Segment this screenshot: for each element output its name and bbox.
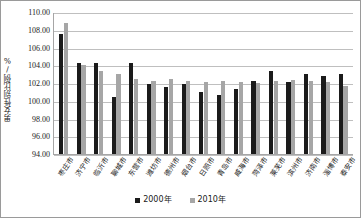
bar-group [300, 13, 317, 154]
bar-2010 [64, 23, 68, 154]
legend-label: 2000年 [143, 196, 171, 204]
legend-entry[interactable]: 2010年 [190, 196, 226, 204]
bar-group [195, 13, 212, 154]
bar-group [265, 13, 282, 154]
y-axis-tick-labels: 110.00108.00106.00104.00102.00100.0098.0… [15, 13, 51, 155]
legend-label: 2010年 [198, 196, 226, 204]
bar-group [230, 13, 247, 154]
x-axis-tick-label: 莱芜市 [269, 156, 287, 178]
bar-group [317, 13, 334, 154]
bar-2000 [339, 74, 343, 154]
bar-2000 [304, 74, 308, 154]
chart-legend: 2000年2010年 [1, 196, 360, 204]
bar-group [335, 13, 352, 154]
bar-2000 [147, 84, 151, 154]
plot-area [53, 13, 353, 155]
bar-2010 [221, 81, 225, 154]
bar-2010 [116, 74, 120, 154]
x-axis-tick-label: 淄博市 [322, 156, 340, 178]
x-axis-tick-label: 德州市 [163, 156, 181, 178]
x-axis-tick-label: 日照市 [198, 156, 216, 178]
bar-2010 [169, 79, 173, 154]
bar-2000 [286, 82, 290, 154]
bar-2010 [291, 80, 295, 154]
bar-2010 [343, 86, 347, 154]
y-axis-tick-label: 94.00 [14, 151, 50, 159]
x-axis-tick-label: 临沂市 [92, 156, 110, 178]
bar-group [282, 13, 299, 154]
y-axis-tick-label: 110.00 [14, 9, 50, 17]
bar-2000 [217, 95, 221, 154]
x-axis-tick-label: 济宁市 [75, 156, 93, 178]
bar-2010 [204, 82, 208, 154]
bar-2000 [59, 34, 63, 154]
x-axis-tick-label: 泰安市 [339, 156, 357, 178]
bar-group [90, 13, 107, 154]
y-axis-tick-label: 98.00 [14, 116, 50, 124]
y-axis-tick-label: 100.00 [14, 98, 50, 106]
bar-2000 [321, 76, 325, 154]
bar-group [55, 13, 72, 154]
x-axis-tick-labels: 枣庄市济宁市临沂市聊城市东营市潍坊市德州市烟台市日照市青岛市威海市菏泽市莱芜市滨… [53, 156, 353, 196]
bar-2000 [77, 63, 81, 154]
bar-2010 [186, 81, 190, 154]
y-axis-tick-label: 108.00 [14, 27, 50, 35]
bar-2000 [112, 97, 116, 154]
x-axis-tick-label: 滨州市 [286, 156, 304, 178]
bar-group [107, 13, 124, 154]
x-axis-tick-label: 潍坊市 [145, 156, 163, 178]
bar-2010 [256, 83, 260, 154]
bar-2010 [81, 65, 85, 154]
bar-2000 [251, 81, 255, 154]
bars-layer [54, 13, 353, 154]
x-axis-tick-label: 烟台市 [181, 156, 199, 178]
bar-group [142, 13, 159, 154]
x-axis-tick-label: 威海市 [234, 156, 252, 178]
bar-2010 [99, 71, 103, 154]
legend-swatch-icon [135, 198, 140, 203]
bar-group [212, 13, 229, 154]
y-axis-tick-label: 106.00 [14, 45, 50, 53]
bar-2010 [274, 81, 278, 154]
bar-group [160, 13, 177, 154]
x-axis-tick-label: 枣庄市 [57, 156, 75, 178]
bar-2000 [94, 63, 98, 154]
y-axis-tick-label: 104.00 [14, 62, 50, 70]
x-axis-tick-label: 聊城市 [110, 156, 128, 178]
x-axis-tick-label: 东营市 [128, 156, 146, 178]
bar-group [177, 13, 194, 154]
legend-entry[interactable]: 2000年 [135, 196, 171, 204]
bar-2000 [164, 87, 168, 154]
bar-2010 [239, 82, 243, 154]
bar-group [247, 13, 264, 154]
bar-2000 [234, 89, 238, 154]
bar-2000 [199, 92, 203, 154]
legend-swatch-icon [190, 198, 195, 203]
bar-2010 [134, 79, 138, 154]
bar-2000 [269, 71, 273, 154]
y-axis-tick-label: 96.00 [14, 133, 50, 141]
bar-2010 [309, 81, 313, 154]
x-axis-tick-label: 菏泽市 [251, 156, 269, 178]
bar-group [125, 13, 142, 154]
bar-chart-figure: 男女性别比例/% 110.00108.00106.00104.00102.001… [0, 0, 361, 218]
bar-2010 [151, 81, 155, 154]
y-axis-tick-label: 102.00 [14, 80, 50, 88]
x-axis-tick-label: 青岛市 [216, 156, 234, 178]
x-axis-tick-label: 济南市 [304, 156, 322, 178]
bar-2000 [182, 84, 186, 154]
bar-2000 [129, 63, 133, 154]
bar-2010 [326, 82, 330, 154]
bar-group [72, 13, 89, 154]
